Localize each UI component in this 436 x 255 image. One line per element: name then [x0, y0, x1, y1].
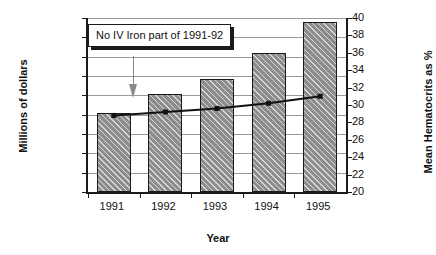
x-tick — [191, 192, 192, 198]
x-axis-title: Year — [0, 232, 436, 244]
annotation-arrowhead-icon — [129, 84, 137, 98]
y-tick-label-right: 28 — [352, 116, 382, 127]
y-tick-label-right: 36 — [352, 47, 382, 58]
x-tick — [140, 192, 141, 198]
annotation-callout: No IV Iron part of 1991-92 — [88, 24, 231, 47]
y-tick-label-right: 34 — [352, 64, 382, 75]
line-path — [114, 96, 320, 115]
x-tick — [243, 192, 244, 198]
x-tick-label: 1995 — [288, 201, 348, 212]
y-tick-label-right: 38 — [352, 29, 382, 40]
y-tick-label-right: 20 — [352, 186, 382, 197]
callout-text: No IV Iron part of 1991-92 — [88, 24, 231, 47]
line-marker — [163, 109, 168, 114]
x-tick — [294, 192, 295, 198]
y-axis-title-left: Millions of dollars — [17, 36, 29, 176]
line-marker — [111, 113, 116, 118]
line-marker — [318, 94, 323, 99]
line-marker — [266, 101, 271, 106]
x-tick — [88, 192, 89, 198]
annotation-leader-line — [133, 56, 134, 86]
y-tick-label-right: 40 — [352, 12, 382, 23]
chart-container: Millions of dollars Mean Hematocrits as … — [0, 0, 436, 255]
y-tick-label-right: 26 — [352, 134, 382, 145]
y-tick-label-right: 22 — [352, 169, 382, 180]
y-tick-label-right: 30 — [352, 99, 382, 110]
y-axis-title-right: Mean Hematocrits as % — [422, 32, 434, 192]
y-tick-label-right: 32 — [352, 82, 382, 93]
y-tick-label-right: 24 — [352, 151, 382, 162]
line-marker — [215, 106, 220, 111]
